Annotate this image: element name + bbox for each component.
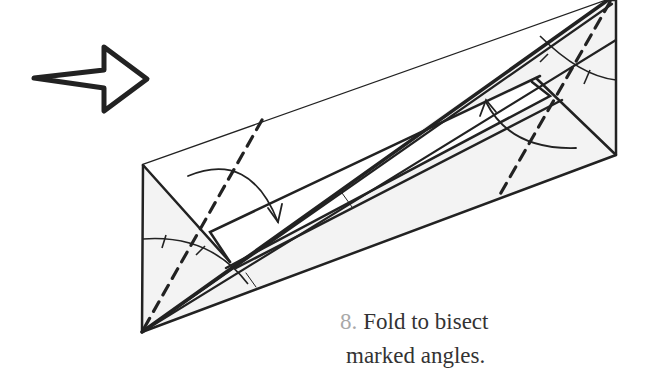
instruction-line-2: marked angles. [340, 339, 488, 373]
step-number: 8. [340, 309, 357, 334]
step-caption: 8.Fold to bisect marked angles. [340, 305, 488, 373]
origami-step-diagram: 8.Fold to bisect marked angles. [0, 0, 647, 391]
instruction-line-1: Fold to bisect [363, 309, 488, 334]
turn-over-arrow-icon [34, 47, 147, 111]
fold-diagram [0, 0, 647, 391]
